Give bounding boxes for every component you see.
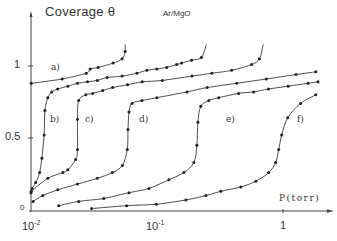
data-point-marker: [155, 67, 158, 70]
curve-label-d: d): [139, 114, 148, 124]
data-point-marker: [299, 102, 302, 105]
x-tick-base: 10: [146, 220, 158, 232]
data-point-marker: [124, 50, 127, 53]
chart-subtitle: Ar/MgO: [163, 9, 191, 18]
data-point-marker: [307, 82, 310, 85]
data-point-marker: [155, 96, 158, 99]
data-point-marker: [76, 183, 79, 186]
x-tick-base: 10: [22, 220, 34, 232]
data-point-marker: [192, 161, 195, 164]
data-point-marker: [185, 198, 188, 201]
data-point-marker: [112, 62, 115, 65]
data-point-marker: [317, 80, 320, 83]
data-point-marker: [43, 109, 46, 112]
data-point-marker: [167, 178, 170, 181]
curve-label-a: a): [51, 62, 60, 72]
curve-e: [59, 82, 318, 206]
data-point-marker: [30, 82, 33, 85]
data-point-marker: [89, 67, 92, 70]
data-point-marker: [235, 82, 238, 85]
curve-label-f: f): [297, 114, 304, 124]
data-point-marker: [254, 180, 257, 183]
data-point-marker: [46, 96, 49, 99]
data-point-marker: [277, 148, 280, 151]
data-point-marker: [125, 204, 128, 207]
data-point-marker: [265, 78, 268, 81]
data-point-marker: [56, 88, 59, 91]
data-point-marker: [121, 75, 124, 78]
data-point-marker: [131, 102, 134, 105]
data-point-marker: [57, 204, 60, 207]
data-point-marker: [267, 88, 270, 91]
data-point-marker: [239, 186, 242, 189]
data-point-marker: [252, 90, 255, 93]
data-point-marker: [175, 63, 178, 66]
data-point-marker: [56, 188, 59, 191]
data-point-marker: [280, 134, 283, 137]
data-point-marker: [127, 128, 130, 131]
data-point-marker: [145, 69, 148, 72]
data-point-marker: [126, 83, 129, 86]
data-point-marker: [274, 161, 277, 164]
data-point-marker: [86, 80, 89, 83]
data-point-marker: [217, 96, 220, 99]
curve-label-e: e): [226, 114, 235, 124]
data-point-marker: [206, 86, 209, 89]
data-point-marker: [237, 92, 240, 95]
y-tick-label-1: 1: [14, 58, 20, 70]
data-point-marker: [96, 177, 99, 180]
data-point-marker: [30, 190, 33, 193]
data-point-marker: [286, 116, 289, 119]
data-point-marker: [258, 57, 261, 60]
curve-label-c: c): [85, 114, 94, 124]
data-point-marker: [76, 118, 79, 121]
data-point-marker: [76, 82, 79, 85]
data-point-marker: [77, 99, 80, 102]
y-tick-label-0.5: 0.5: [5, 130, 20, 142]
y-axis-arrow: [30, 11, 33, 17]
data-point-marker: [196, 121, 199, 124]
data-point-marker: [182, 171, 185, 174]
data-point-marker: [267, 171, 270, 174]
data-point-marker: [111, 86, 114, 89]
data-point-marker: [106, 76, 109, 79]
data-point-marker: [66, 168, 69, 171]
chart-title: Coverage θ: [45, 4, 115, 19]
y-tick-label-0: 0: [20, 203, 24, 212]
data-point-marker: [200, 56, 203, 59]
data-point-marker: [90, 207, 93, 210]
data-point-marker: [97, 66, 100, 69]
axes: [28, 11, 334, 213]
data-point-marker: [190, 59, 193, 62]
data-point-marker: [126, 148, 129, 151]
data-point-marker: [61, 78, 64, 81]
data-point-marker: [287, 85, 290, 88]
data-point-marker: [204, 194, 207, 197]
data-point-marker: [219, 190, 222, 193]
data-point-marker: [84, 93, 87, 96]
data-point-marker: [210, 72, 213, 75]
data-point-marker: [40, 157, 43, 160]
x-tick-label-1: 1: [280, 219, 286, 231]
data-point-marker: [295, 73, 298, 76]
data-point-marker: [85, 72, 88, 75]
data-point-marker: [96, 79, 99, 82]
data-point-marker: [141, 80, 144, 83]
data-point-marker: [128, 191, 131, 194]
data-point-marker: [111, 171, 114, 174]
data-point-marker: [32, 200, 35, 203]
data-point-marker: [161, 79, 164, 82]
x-axis-arrow: [327, 209, 334, 212]
x-tick-label-1e-1: 10-1: [146, 219, 164, 232]
data-point-marker: [147, 187, 150, 190]
data-point-marker: [207, 99, 210, 102]
curves: [30, 44, 320, 210]
data-point-marker: [191, 75, 194, 78]
data-point-marker: [77, 200, 80, 203]
data-point-marker: [121, 164, 124, 167]
data-point-marker: [101, 89, 104, 92]
data-point-marker: [38, 171, 41, 174]
data-point-marker: [250, 63, 253, 66]
data-point-marker: [66, 85, 69, 88]
data-point-marker: [46, 177, 49, 180]
